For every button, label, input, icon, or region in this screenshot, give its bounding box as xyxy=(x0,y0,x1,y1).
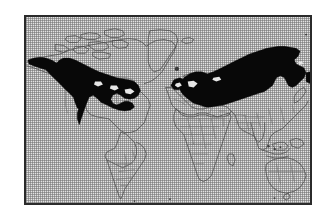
range-shading-eurasia xyxy=(171,46,310,107)
island-iceland-dot xyxy=(175,67,179,71)
island-iceland-outline xyxy=(182,38,194,44)
range-shading-north-america xyxy=(28,57,140,125)
island-tasmania xyxy=(283,193,290,200)
landmass-south-america xyxy=(105,133,146,200)
landmass-greenland xyxy=(148,30,193,72)
map-frame xyxy=(24,15,312,205)
figure-root xyxy=(0,0,334,222)
world-map-svg xyxy=(26,17,310,203)
landmass-africa xyxy=(174,109,235,181)
island-japan xyxy=(294,87,306,103)
island-madagascar xyxy=(227,154,235,166)
landmass-australia xyxy=(266,158,310,200)
